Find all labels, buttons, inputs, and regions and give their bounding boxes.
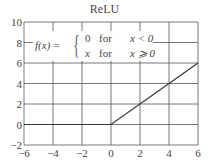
relu-chart: −6−4−20246−20246810 [0,0,209,166]
svg-text:0: 0 [17,119,23,131]
svg-text:4: 4 [17,78,23,90]
svg-text:8: 8 [17,37,23,49]
case-value: 0 [85,32,91,44]
svg-text:0: 0 [108,147,114,159]
case-condition: x ⩾ 0 [130,47,155,60]
case-word: for [99,32,112,44]
svg-text:6: 6 [17,57,23,69]
svg-text:4: 4 [166,147,172,159]
svg-text:2: 2 [137,147,143,159]
formula-box: f(x) = { 0 for x < 0 x for x ⩾ 0 [33,31,153,61]
case-value: x [85,47,90,59]
case-condition: x < 0 [130,32,153,44]
svg-text:−4: −4 [47,147,59,159]
svg-text:−2: −2 [76,147,88,159]
svg-text:10: 10 [11,16,23,28]
formula-label: f(x) = [35,39,60,51]
brace-icon: { [73,31,80,59]
case-word: for [99,47,112,59]
svg-text:−2: −2 [10,139,22,151]
svg-text:2: 2 [17,98,23,110]
svg-text:6: 6 [195,147,201,159]
